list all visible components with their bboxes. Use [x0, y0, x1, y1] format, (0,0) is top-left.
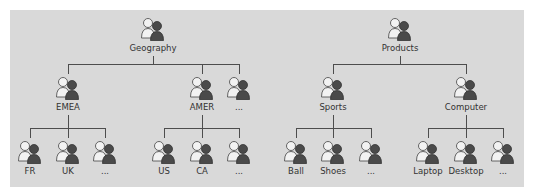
user-group-icon [319, 76, 347, 100]
connector [371, 128, 372, 138]
node-label: Sports [303, 102, 363, 112]
user-group-icon [225, 76, 253, 100]
user-group-icon [452, 76, 480, 100]
connector [68, 115, 69, 128]
node-emea: EMEA [38, 76, 98, 112]
connector [164, 128, 165, 138]
connector [68, 64, 240, 65]
node-products: Products [370, 17, 430, 53]
connector [202, 128, 203, 138]
connector [153, 56, 154, 64]
user-group-icon [489, 140, 517, 164]
connector [400, 56, 401, 64]
node-computer: Computer [436, 76, 496, 112]
node-amer-more: ... [209, 140, 269, 176]
connector [333, 64, 334, 74]
node-sports-more: ... [341, 140, 401, 176]
node-computer-more: ... [473, 140, 533, 176]
node-label: ... [209, 166, 269, 176]
connector [333, 64, 467, 65]
node-geo-more: ... [209, 76, 269, 112]
node-label: ... [473, 166, 533, 176]
connector [466, 64, 467, 74]
connector [30, 128, 31, 138]
user-group-icon [139, 17, 167, 41]
user-group-icon [91, 140, 119, 164]
user-group-icon [54, 76, 82, 100]
connector [333, 115, 334, 128]
connector [296, 128, 297, 138]
connector [239, 128, 240, 138]
node-label: ... [75, 166, 135, 176]
node-label: ... [341, 166, 401, 176]
connector [239, 64, 240, 74]
connector [202, 64, 203, 74]
connector [68, 128, 69, 138]
user-group-icon [225, 140, 253, 164]
node-label: Products [370, 43, 430, 53]
connector [68, 64, 69, 74]
user-group-icon [386, 17, 414, 41]
node-label: EMEA [38, 102, 98, 112]
connector [466, 128, 467, 138]
node-sports: Sports [303, 76, 363, 112]
connector [105, 128, 106, 138]
connector [333, 128, 334, 138]
node-geography: Geography [123, 17, 183, 53]
connector [428, 128, 429, 138]
user-group-icon [357, 140, 385, 164]
node-label: Geography [123, 43, 183, 53]
node-label: ... [209, 102, 269, 112]
node-emea-more: ... [75, 140, 135, 176]
connector [503, 128, 504, 138]
connector [466, 115, 467, 128]
connector [202, 115, 203, 128]
node-label: Computer [436, 102, 496, 112]
connector [296, 128, 372, 129]
